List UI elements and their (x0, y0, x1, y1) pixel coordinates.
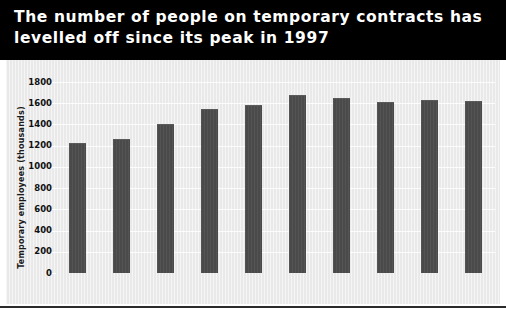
bar-1998 (333, 98, 350, 273)
y-axis-tick-label: 1600 (0, 99, 52, 108)
chart-figure: The number of people on temporary contra… (0, 0, 506, 313)
bar-1993 (113, 139, 130, 273)
bar-1992 (69, 143, 86, 274)
y-axis-tick (52, 167, 56, 168)
y-axis-tick-label: 1400 (0, 120, 52, 129)
y-axis-tick (52, 82, 56, 83)
y-axis-tick-label: 800 (0, 184, 52, 193)
bottom-divider (0, 306, 506, 308)
y-axis-tick-label: 0 (0, 269, 52, 278)
y-axis-tick-label: 1800 (0, 78, 52, 87)
y-axis-tick (52, 124, 56, 125)
y-axis-tick-label-text: 200 (6, 247, 52, 256)
y-axis-tick-label-text: 1400 (6, 120, 52, 129)
y-axis-tick-label-text: 1800 (6, 78, 52, 87)
y-axis-tick (52, 273, 56, 274)
bar-2001 (465, 101, 482, 273)
title-banner: The number of people on temporary contra… (0, 0, 506, 60)
y-axis-tick-label: 400 (0, 226, 52, 235)
chart-card: Temporary employees (thousands) 02004006… (0, 60, 506, 313)
y-axis-tick (52, 209, 56, 210)
y-axis-tick-label-text: 1000 (6, 162, 52, 171)
bar-1994 (157, 124, 174, 273)
y-axis-tick-label-text: 800 (6, 184, 52, 193)
y-axis-tick-label-text: 1600 (6, 99, 52, 108)
y-axis-tick-label: 600 (0, 205, 52, 214)
y-axis-tick (52, 252, 56, 253)
y-axis-tick-label-text: 1200 (6, 141, 52, 150)
bar-1997 (289, 95, 306, 273)
chart-title: The number of people on temporary contra… (14, 7, 492, 49)
y-axis-tick-label-text: 400 (6, 226, 52, 235)
y-axis-tick (52, 231, 56, 232)
bar-1999 (377, 102, 394, 273)
bar-1996 (245, 105, 262, 273)
y-axis-tick-label: 200 (0, 247, 52, 256)
y-axis-tick-label-text: 0 (6, 269, 52, 278)
y-axis-tick (52, 188, 56, 189)
gridline (55, 82, 495, 83)
y-axis-tick-label: 1200 (0, 141, 52, 150)
bar-1995 (201, 109, 218, 273)
y-axis-tick-label-text: 600 (6, 205, 52, 214)
y-axis-tick (52, 103, 56, 104)
bar-2000 (421, 100, 438, 273)
y-axis-tick (52, 146, 56, 147)
y-axis-tick-label: 1000 (0, 162, 52, 171)
